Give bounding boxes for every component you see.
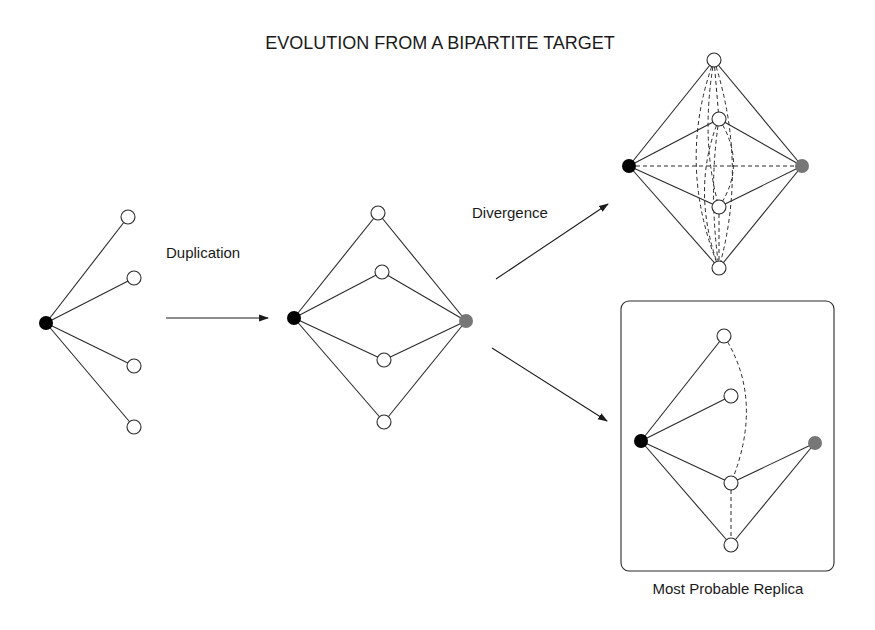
target-node bbox=[127, 271, 141, 285]
target-node bbox=[121, 210, 135, 224]
divergence-arrow-down bbox=[492, 348, 607, 421]
target-node bbox=[707, 53, 721, 67]
duplicate-hub-node bbox=[459, 314, 473, 328]
target-node bbox=[717, 329, 731, 343]
target-node bbox=[724, 476, 738, 490]
graph-original-star bbox=[39, 210, 141, 434]
graph-divergence-possibilities bbox=[622, 53, 809, 275]
target-node bbox=[712, 200, 726, 214]
replica-caption: Most Probable Replica bbox=[653, 580, 805, 597]
duplication-label: Duplication bbox=[166, 244, 240, 261]
target-node bbox=[371, 206, 385, 220]
target-node bbox=[377, 415, 391, 429]
graph-most-probable-replica bbox=[621, 301, 834, 571]
hub-node bbox=[622, 159, 636, 173]
duplicate-hub-node bbox=[795, 159, 809, 173]
hub-node bbox=[39, 316, 53, 330]
target-node bbox=[724, 389, 738, 403]
target-node bbox=[712, 112, 726, 126]
diagram-canvas: EVOLUTION FROM A BIPARTITE TARGET Duplic… bbox=[0, 0, 875, 630]
hub-node bbox=[634, 434, 648, 448]
diagram-title: EVOLUTION FROM A BIPARTITE TARGET bbox=[265, 33, 615, 53]
divergence-label: Divergence bbox=[472, 204, 548, 221]
duplicate-hub-node bbox=[808, 436, 822, 450]
target-node bbox=[127, 359, 141, 373]
target-node bbox=[712, 261, 726, 275]
target-node bbox=[127, 420, 141, 434]
hub-node bbox=[287, 311, 301, 325]
graph-duplicated bbox=[287, 206, 473, 429]
target-node bbox=[375, 265, 389, 279]
target-node bbox=[724, 538, 738, 552]
target-node bbox=[377, 353, 391, 367]
